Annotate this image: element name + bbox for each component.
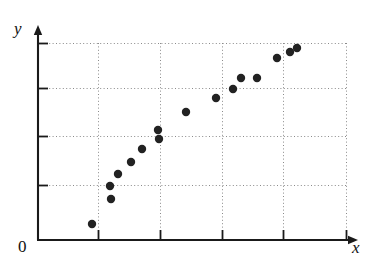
data-point-10 (229, 85, 237, 93)
data-point-13 (273, 54, 281, 62)
axis-lines-group (34, 25, 358, 244)
data-point-6 (154, 126, 162, 134)
data-point-11 (237, 74, 245, 82)
data-point-8 (182, 108, 190, 116)
data-points-group (88, 44, 301, 228)
gridlines-group (39, 43, 347, 239)
data-point-1 (106, 182, 114, 190)
plot-canvas (0, 0, 377, 267)
data-point-3 (114, 170, 122, 178)
y-axis-label: y (14, 20, 22, 37)
data-point-0 (88, 220, 96, 228)
data-point-7 (155, 135, 163, 143)
data-point-15 (293, 44, 301, 52)
data-point-5 (138, 145, 146, 153)
axis-ticks-group (38, 44, 347, 241)
origin-label: 0 (18, 238, 27, 255)
data-point-12 (253, 74, 261, 82)
data-point-4 (127, 158, 135, 166)
data-point-9 (212, 94, 220, 102)
scatter-plot-figure: y x 0 (0, 0, 377, 267)
y-axis-arrowhead (34, 25, 42, 35)
data-point-2 (107, 195, 115, 203)
x-axis-label: x (352, 239, 360, 256)
